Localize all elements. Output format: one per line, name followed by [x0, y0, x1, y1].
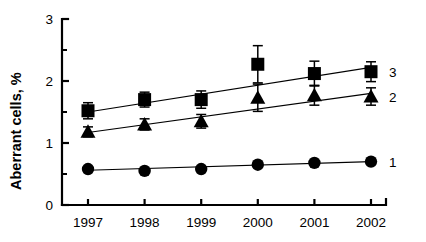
chart-figure: Aberrant cells, % 0123 19971998199920002… [0, 0, 426, 242]
series-label-1: 1 [389, 155, 397, 170]
y-tick-label: 2 [45, 74, 53, 89]
x-tick-label: 1998 [130, 215, 160, 230]
data-point-marker [252, 159, 264, 171]
x-tick-label: 2002 [356, 215, 386, 230]
data-point-marker [195, 93, 208, 106]
series-label-3: 3 [389, 65, 397, 80]
data-point-marker [138, 93, 151, 106]
data-point-marker [82, 163, 94, 175]
y-tick-label: 0 [45, 198, 53, 213]
series-label-2: 2 [389, 90, 397, 105]
data-point-marker [308, 67, 321, 80]
data-point-marker [251, 58, 264, 71]
data-point-marker [365, 65, 378, 78]
chart-canvas: Aberrant cells, % 0123 19971998199920002… [0, 0, 426, 242]
data-point-marker [138, 165, 150, 177]
x-tick-label: 1999 [186, 215, 216, 230]
y-tick-label: 3 [45, 12, 53, 27]
data-point-marker [308, 157, 320, 169]
x-tick-label: 2001 [299, 215, 329, 230]
data-point-marker [195, 163, 207, 175]
data-point-marker [82, 104, 95, 117]
y-tick-label: 1 [45, 136, 53, 151]
y-axis-label: Aberrant cells, % [8, 72, 24, 190]
data-point-marker [365, 155, 377, 167]
x-tick-label: 2000 [243, 215, 273, 230]
x-tick-label: 1997 [73, 215, 103, 230]
